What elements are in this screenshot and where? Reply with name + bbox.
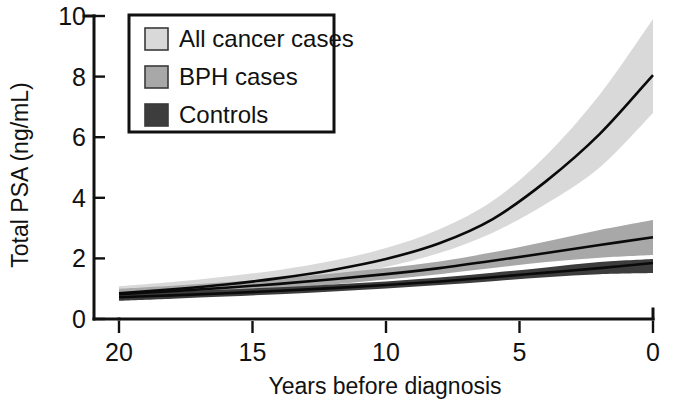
x-tick-label: 20 (105, 338, 133, 366)
y-tick-label: 8 (72, 63, 86, 91)
x-tick-label: 10 (372, 338, 400, 366)
y-tick-label: 6 (72, 123, 86, 151)
legend-swatch-1 (145, 28, 168, 50)
y-tick-label: 0 (72, 305, 86, 333)
y-axis-ticks: 0246810 (58, 2, 105, 333)
legend-swatch-3 (145, 104, 168, 126)
legend-label-3: Controls (179, 101, 268, 128)
y-tick-label: 10 (58, 2, 86, 30)
y-tick-label: 4 (72, 184, 86, 212)
y-axis-title: Total PSA (ng/mL) (7, 82, 33, 267)
x-tick-label: 0 (646, 338, 660, 366)
legend-label-2: BPH cases (179, 63, 298, 90)
x-axis-title: Years before diagnosis (268, 373, 501, 399)
x-axis-ticks: 20151050 (105, 321, 660, 366)
legend-label-1: All cancer cases (179, 25, 354, 52)
y-tick-label: 2 (72, 244, 86, 272)
legend-swatch-2 (145, 66, 168, 88)
chart-legend: All cancer casesBPH casesControls (129, 15, 354, 132)
psa-trajectory-chart: 0246810 20151050 Years before diagnosis … (0, 0, 673, 411)
x-tick-label: 15 (239, 338, 267, 366)
chart-figure: 0246810 20151050 Years before diagnosis … (0, 0, 673, 411)
x-tick-label: 5 (513, 338, 527, 366)
